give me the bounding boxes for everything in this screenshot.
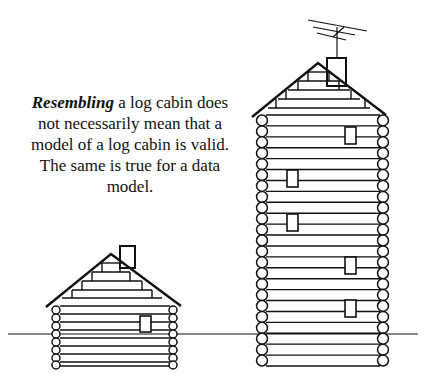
tv-antenna xyxy=(308,20,367,58)
window xyxy=(140,316,151,332)
window xyxy=(345,300,356,317)
tall-cabin xyxy=(252,20,388,366)
log-cabin-illustration xyxy=(0,0,427,388)
window xyxy=(345,127,356,144)
window xyxy=(287,170,298,187)
window xyxy=(287,214,298,231)
window xyxy=(345,257,356,274)
small-cabin xyxy=(46,246,181,369)
